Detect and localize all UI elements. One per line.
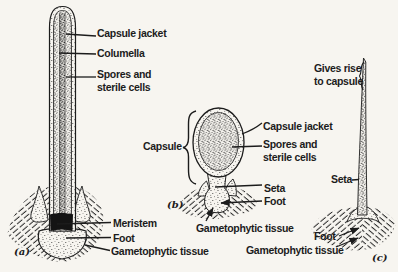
label-a-columella: Columella — [97, 48, 144, 59]
sporophyte-figure: Capsule jacket Columella Spores and ster… — [0, 0, 398, 272]
sporophyte-b-drawing — [179, 108, 262, 221]
label-b-seta: Seta — [264, 183, 285, 194]
a-columella-stipple — [59, 13, 65, 213]
tag-b: (b) — [167, 199, 183, 210]
label-a-foot: Foot — [113, 233, 135, 244]
tag-c: (c) — [372, 252, 388, 263]
label-a-spores-sterile: Spores and sterile cells — [97, 68, 151, 94]
tag-a: (a) — [14, 246, 30, 257]
b-spore-mass-stipple — [199, 113, 239, 171]
label-b-foot: Foot — [264, 196, 286, 207]
label-b-capsule: Capsule — [143, 141, 182, 152]
label-a-gametophytic-tissue: Gametophytic tissue — [111, 246, 209, 257]
label-c-gives-rise: Gives rise to capsule — [314, 62, 363, 88]
sporophyte-a-drawing — [8, 7, 111, 263]
label-b-capsule-jacket: Capsule jacket — [263, 121, 332, 132]
label-a-capsule-jacket: Capsule jacket — [97, 28, 166, 39]
label-c-foot: Foot — [314, 231, 336, 242]
label-a-meristem: Meristem — [113, 218, 157, 229]
a-meristem-shape — [50, 213, 73, 231]
label-b-spores-sterile: Spores and sterile cells — [263, 138, 317, 164]
label-c-seta: Seta — [331, 174, 352, 185]
label-c-gametophytic-tissue: Gametophytic tissue — [246, 245, 344, 256]
label-b-gametophytic-tissue: Gametophytic tissue — [196, 223, 294, 234]
